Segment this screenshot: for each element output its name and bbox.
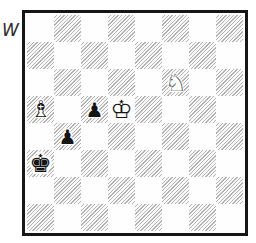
black-pawn-c5[interactable]: ♟♟ — [81, 96, 108, 123]
square-f1[interactable] — [162, 204, 189, 231]
square-g1[interactable] — [189, 204, 216, 231]
square-e6[interactable] — [135, 69, 162, 96]
square-e2[interactable] — [135, 177, 162, 204]
square-g6[interactable] — [189, 69, 216, 96]
square-h3[interactable] — [216, 150, 243, 177]
square-f2[interactable] — [162, 177, 189, 204]
square-d8[interactable] — [108, 15, 135, 42]
white-king-icon: ♔ — [108, 96, 135, 123]
square-c8[interactable] — [81, 15, 108, 42]
square-h2[interactable] — [216, 177, 243, 204]
square-e1[interactable] — [135, 204, 162, 231]
side-to-move-indicator: W — [2, 20, 19, 40]
square-d4[interactable] — [108, 123, 135, 150]
chess-board-frame: ♝♗♟♟♚♔♞♘♟♟♚♚ — [22, 10, 248, 236]
square-d3[interactable] — [108, 150, 135, 177]
square-c3[interactable] — [81, 150, 108, 177]
square-f4[interactable] — [162, 123, 189, 150]
square-d6[interactable] — [108, 69, 135, 96]
square-e3[interactable] — [135, 150, 162, 177]
square-b7[interactable] — [54, 42, 81, 69]
square-g5[interactable] — [189, 96, 216, 123]
square-b5[interactable] — [54, 96, 81, 123]
square-d7[interactable] — [108, 42, 135, 69]
black-king-icon: ♚ — [27, 150, 54, 177]
chess-board: ♝♗♟♟♚♔♞♘♟♟♚♚ — [27, 15, 243, 231]
square-b1[interactable] — [54, 204, 81, 231]
square-g4[interactable] — [189, 123, 216, 150]
square-f7[interactable] — [162, 42, 189, 69]
square-a2[interactable] — [27, 177, 54, 204]
chess-puzzle-page: W ♝♗♟♟♚♔♞♘♟♟♚♚ — [0, 0, 256, 243]
square-d1[interactable] — [108, 204, 135, 231]
square-a4[interactable] — [27, 123, 54, 150]
square-e4[interactable] — [135, 123, 162, 150]
square-e8[interactable] — [135, 15, 162, 42]
square-c1[interactable] — [81, 204, 108, 231]
square-h4[interactable] — [216, 123, 243, 150]
square-f5[interactable] — [162, 96, 189, 123]
square-h8[interactable] — [216, 15, 243, 42]
white-knight-icon: ♘ — [162, 69, 189, 96]
square-b3[interactable] — [54, 150, 81, 177]
square-g2[interactable] — [189, 177, 216, 204]
square-e7[interactable] — [135, 42, 162, 69]
square-g8[interactable] — [189, 15, 216, 42]
square-h7[interactable] — [216, 42, 243, 69]
square-a7[interactable] — [27, 42, 54, 69]
white-bishop-icon: ♗ — [27, 96, 54, 123]
white-knight-f6[interactable]: ♞♘ — [162, 69, 189, 96]
black-king-a3[interactable]: ♚♚ — [27, 150, 54, 177]
black-pawn-b4[interactable]: ♟♟ — [54, 123, 81, 150]
square-h1[interactable] — [216, 204, 243, 231]
square-b8[interactable] — [54, 15, 81, 42]
square-a1[interactable] — [27, 204, 54, 231]
square-g7[interactable] — [189, 42, 216, 69]
square-f3[interactable] — [162, 150, 189, 177]
square-e5[interactable] — [135, 96, 162, 123]
square-b2[interactable] — [54, 177, 81, 204]
square-f8[interactable] — [162, 15, 189, 42]
black-pawn-icon: ♟ — [54, 123, 81, 150]
square-b6[interactable] — [54, 69, 81, 96]
white-bishop-a5[interactable]: ♝♗ — [27, 96, 54, 123]
black-pawn-icon: ♟ — [81, 96, 108, 123]
square-h6[interactable] — [216, 69, 243, 96]
square-c6[interactable] — [81, 69, 108, 96]
square-d2[interactable] — [108, 177, 135, 204]
square-h5[interactable] — [216, 96, 243, 123]
square-g3[interactable] — [189, 150, 216, 177]
white-king-d5[interactable]: ♚♔ — [108, 96, 135, 123]
square-a6[interactable] — [27, 69, 54, 96]
square-a8[interactable] — [27, 15, 54, 42]
square-c4[interactable] — [81, 123, 108, 150]
square-c2[interactable] — [81, 177, 108, 204]
square-c7[interactable] — [81, 42, 108, 69]
